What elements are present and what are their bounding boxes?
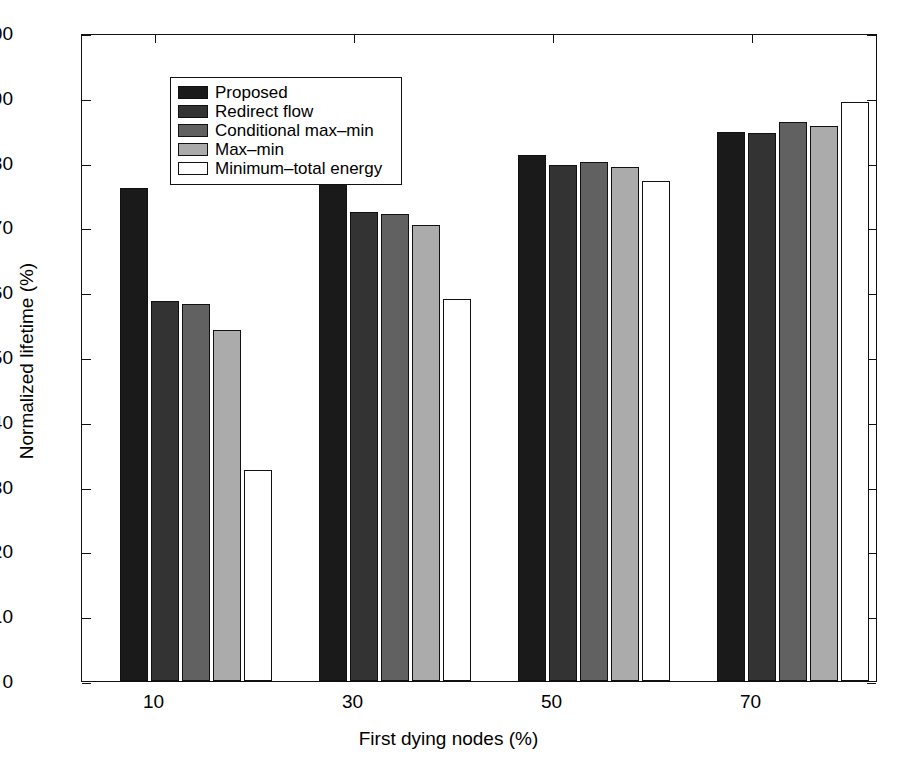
- y-tick-mark: [82, 489, 91, 490]
- y-tick-mark: [82, 294, 91, 295]
- y-tick-mark: [82, 359, 91, 360]
- bar: [213, 330, 241, 681]
- legend-swatch: [178, 143, 208, 156]
- legend-item: Redirect flow: [178, 102, 394, 120]
- bar: [717, 132, 745, 682]
- bar: [350, 212, 378, 681]
- bar: [412, 225, 440, 681]
- bar: [611, 167, 639, 681]
- bar: [580, 162, 608, 681]
- bar: [443, 299, 471, 681]
- legend-label: Minimum–total energy: [215, 160, 382, 177]
- bar: [748, 133, 776, 681]
- legend-item: Proposed: [178, 83, 394, 101]
- bar: [319, 183, 347, 681]
- y-axis-title: Normalized lifetime (%): [16, 216, 38, 506]
- y-tick-mark: [82, 618, 91, 619]
- legend-item: Conditional max–min: [178, 121, 394, 139]
- bar: [120, 188, 148, 681]
- bar: [549, 165, 577, 681]
- x-tick-mark-top: [155, 35, 156, 43]
- bar: [244, 470, 272, 681]
- bar: [151, 301, 179, 681]
- y-tick-mark: [82, 424, 91, 425]
- legend-label: Max–min: [215, 141, 284, 158]
- y-tick-mark: [82, 553, 91, 554]
- bar: [841, 102, 869, 681]
- plot-area: ProposedRedirect flowConditional max–min…: [81, 34, 877, 682]
- legend: ProposedRedirect flowConditional max–min…: [170, 77, 402, 185]
- legend-swatch: [178, 105, 208, 118]
- y-tick-mark: [82, 100, 91, 101]
- bar: [182, 304, 210, 681]
- legend-label: Proposed: [215, 84, 288, 101]
- y-tick-mark: [82, 165, 91, 166]
- x-tick-label: 30: [342, 692, 363, 711]
- x-tick-mark-top: [553, 35, 554, 43]
- legend-item: Max–min: [178, 140, 394, 158]
- y-tick-mark-right: [867, 683, 876, 684]
- x-axis-title: First dying nodes (%): [0, 728, 897, 750]
- y-tick-mark-right: [867, 100, 876, 101]
- legend-swatch: [178, 86, 208, 99]
- legend-swatch: [178, 124, 208, 137]
- y-tick-label: 0: [0, 672, 13, 691]
- y-tick-label: 10: [0, 607, 13, 626]
- x-tick-label: 70: [740, 692, 761, 711]
- bar: [810, 126, 838, 681]
- y-tick-mark: [82, 683, 91, 684]
- y-tick-label: 30: [0, 478, 13, 497]
- y-tick-label: 20: [0, 542, 13, 561]
- y-tick-mark-right: [867, 35, 876, 36]
- x-tick-label: 50: [541, 692, 562, 711]
- legend-label: Redirect flow: [215, 103, 313, 120]
- bar: [779, 122, 807, 681]
- y-tick-label: 80: [0, 154, 13, 173]
- y-tick-label: 60: [0, 283, 13, 302]
- y-tick-label: 90: [0, 89, 13, 108]
- x-tick-mark-top: [752, 35, 753, 43]
- x-tick-label: 10: [143, 692, 164, 711]
- bar: [518, 155, 546, 681]
- y-tick-label: 100: [0, 24, 13, 43]
- bar: [381, 214, 409, 681]
- x-tick-mark-top: [354, 35, 355, 43]
- bar-chart-figure: Normalized lifetime (%) First dying node…: [0, 0, 897, 759]
- y-tick-mark: [82, 229, 91, 230]
- bar: [642, 181, 670, 681]
- legend-label: Conditional max–min: [215, 122, 374, 139]
- y-tick-label: 70: [0, 218, 13, 237]
- legend-swatch: [178, 162, 208, 175]
- y-tick-mark: [82, 35, 91, 36]
- legend-item: Minimum–total energy: [178, 159, 394, 177]
- y-tick-label: 40: [0, 413, 13, 432]
- y-tick-label: 50: [0, 348, 13, 367]
